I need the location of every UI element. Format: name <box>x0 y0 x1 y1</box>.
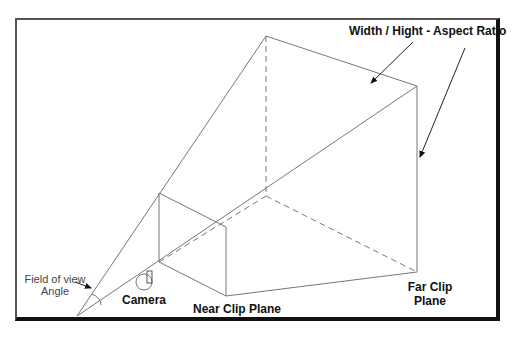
frustum-edge-bottom <box>77 86 417 316</box>
camera-label: Camera <box>122 293 166 307</box>
aspect-arrow-1 <box>371 42 413 83</box>
fov-line2: Angle <box>20 285 90 297</box>
far-plane-bottom-dashed <box>266 196 417 272</box>
camera-icon <box>136 274 152 290</box>
frustum-floor-edge <box>226 272 417 296</box>
frustum-edge-top <box>77 36 266 316</box>
far-clip-line1: Far Clip <box>390 280 470 294</box>
far-clip-plane-label: Far Clip Plane <box>390 280 470 308</box>
far-plane-top <box>266 36 417 86</box>
camera-lens-icon <box>147 271 152 283</box>
far-hidden-edge-dashed <box>159 196 266 262</box>
near-plane-top <box>159 193 226 227</box>
far-clip-line2: Plane <box>390 294 470 308</box>
aspect-arrow-2 <box>420 48 465 157</box>
fov-label: Field of view Angle <box>20 273 90 297</box>
aspect-ratio-label: Width / Hight - Aspect Ratio <box>349 24 506 38</box>
fov-line1: Field of view <box>20 273 90 285</box>
near-clip-plane-label: Near Clip Plane <box>193 302 281 316</box>
near-plane-bottom <box>159 262 226 296</box>
